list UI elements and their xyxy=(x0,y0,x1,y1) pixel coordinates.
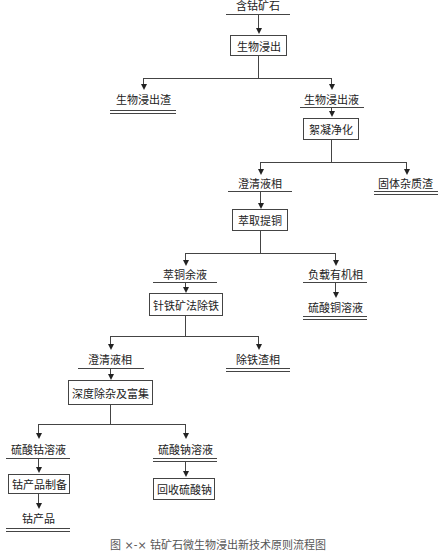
arrow-down-icon xyxy=(329,84,335,90)
arrow-down-icon xyxy=(256,28,262,34)
node-bioleach-liquor: 生物浸出液 xyxy=(304,94,359,107)
arrow-down-icon xyxy=(333,292,339,298)
arrow-down-icon xyxy=(36,433,42,439)
node-clear-phase-2: 澄清液相 xyxy=(88,354,132,367)
node-na2so4-solution: 硫酸钠溶液 xyxy=(158,444,213,457)
node-loaded-organic: 负载有机相 xyxy=(308,269,363,282)
arrow-down-icon xyxy=(183,471,189,477)
arrow-down-icon xyxy=(108,344,114,350)
final-product-double-line xyxy=(374,191,438,195)
material-underline xyxy=(78,368,144,369)
connector xyxy=(260,231,261,253)
final-product-double-line xyxy=(110,110,176,114)
process-label: 回收硫酸钠 xyxy=(157,481,212,497)
node-fe-residue: 除铁渣相 xyxy=(236,354,280,367)
final-product-double-line xyxy=(6,528,70,532)
final-product-double-line xyxy=(226,368,290,372)
node-clear-phase-1: 澄清液相 xyxy=(238,178,282,191)
material-underline xyxy=(300,107,364,108)
process-box-deep-purification: 深度除杂及富集 xyxy=(68,380,153,405)
node-bioleach-residue: 生物浸出渣 xyxy=(116,94,171,107)
arrow-down-icon xyxy=(256,344,262,350)
branch-line xyxy=(260,162,406,163)
arrow-down-icon xyxy=(258,169,264,175)
process-box-flocculation: 絮凝净化 xyxy=(303,118,359,140)
arrow-down-icon xyxy=(329,111,335,117)
connector xyxy=(185,316,186,336)
process-label: 钴产品制备 xyxy=(12,476,67,492)
connector xyxy=(258,14,259,29)
node-cuso4-solution: 硫酸铜溶液 xyxy=(308,302,363,315)
arrow-down-icon xyxy=(333,260,339,266)
arrow-down-icon xyxy=(183,433,189,439)
connector xyxy=(258,56,259,78)
arrow-down-icon xyxy=(404,169,410,175)
process-box-co-product-prep: 钴产品制备 xyxy=(8,474,70,494)
connector xyxy=(331,140,332,162)
branch-line xyxy=(38,424,185,425)
process-label: 针铁矿法除铁 xyxy=(153,297,219,313)
branch-line xyxy=(185,253,335,254)
branch-line xyxy=(110,336,258,337)
arrow-down-icon xyxy=(36,503,42,509)
process-box-bioleach: 生物浸出 xyxy=(230,35,287,56)
process-box-cu-extraction: 萃取提铜 xyxy=(232,209,288,231)
branch-line xyxy=(143,78,331,79)
process-box-goethite-fe-removal: 针铁矿法除铁 xyxy=(149,293,223,316)
arrow-down-icon xyxy=(183,260,189,266)
process-label: 絮凝净化 xyxy=(309,121,353,137)
arrow-down-icon xyxy=(141,84,147,90)
process-label: 生物浸出 xyxy=(237,38,281,54)
process-label: 深度除杂及富集 xyxy=(72,385,149,401)
node-raffinate: 萃铜余液 xyxy=(163,269,207,282)
process-box-na2so4-recovery: 回收硫酸钠 xyxy=(153,478,215,500)
process-label: 萃取提铜 xyxy=(238,212,282,228)
final-product-double-line xyxy=(303,316,367,320)
connector xyxy=(110,405,111,424)
node-co-product: 钴产品 xyxy=(22,513,55,526)
node-solid-residue: 固体杂质渣 xyxy=(378,178,433,191)
figure-caption: 图 ×-× 钴矿石微生物浸出新技术原则流程图 xyxy=(110,536,326,552)
node-ore: 含钴矿石 xyxy=(236,0,280,13)
arrow-down-icon xyxy=(36,467,42,473)
node-coso4-solution: 硫酸钴溶液 xyxy=(11,444,66,457)
